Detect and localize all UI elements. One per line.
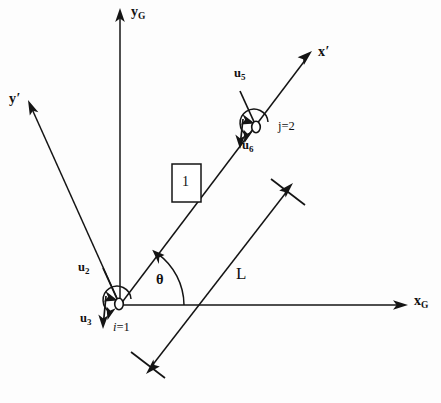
local-x-prime-axis-label: x′ <box>318 45 330 59</box>
dof-u2-label: u2 <box>78 261 89 274</box>
dof-u3-label: u3 <box>80 312 91 325</box>
global-y-axis-label: yG <box>131 5 145 19</box>
node-j-marker <box>252 121 261 133</box>
diagram-canvas: yG xG x′ y′ θ L 1 u2 u3 u5 u6 i=1 j=2 <box>0 0 441 403</box>
global-y-axis <box>115 8 125 305</box>
node-i-label: i=1 <box>113 321 130 334</box>
global-x-axis-label: xG <box>414 294 428 308</box>
element-number-label: 1 <box>182 175 189 189</box>
global-x-axis <box>120 300 408 310</box>
dof-u5-label: u5 <box>234 67 245 80</box>
node-j-label: j=2 <box>278 120 295 133</box>
theta-angle-label: θ <box>156 272 164 287</box>
local-y-prime-axis-label: y′ <box>9 92 21 106</box>
diagram-svg <box>0 0 441 403</box>
length-label: L <box>236 265 246 282</box>
dof-u6-label: u6 <box>242 139 253 152</box>
node-i-marker <box>115 298 124 310</box>
local-x-prime-axis <box>120 51 312 305</box>
